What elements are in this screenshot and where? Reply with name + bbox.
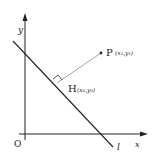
x-axis-arrow-icon bbox=[140, 132, 148, 137]
line-l bbox=[13, 41, 113, 147]
y-axis-label: y bbox=[17, 25, 24, 35]
point-H-coords: (x₀,y₀) bbox=[77, 86, 96, 94]
point-P bbox=[100, 52, 103, 55]
point-H-label: H bbox=[68, 83, 77, 94]
diagram-canvas: y O x l P (x₁,y₁) H (x₀,y₀) bbox=[0, 0, 160, 160]
origin-label: O bbox=[14, 139, 21, 149]
point-P-coords: (x₁,y₁) bbox=[115, 49, 134, 57]
y-axis bbox=[23, 13, 28, 140]
point-P-label: P bbox=[106, 47, 113, 58]
x-axis-label: x bbox=[135, 140, 140, 149]
segment-PH bbox=[57, 53, 101, 83]
y-axis-arrow-icon bbox=[23, 13, 28, 21]
line-label: l bbox=[117, 142, 120, 152]
x-axis bbox=[19, 132, 148, 137]
right-angle-icon bbox=[53, 75, 62, 80]
